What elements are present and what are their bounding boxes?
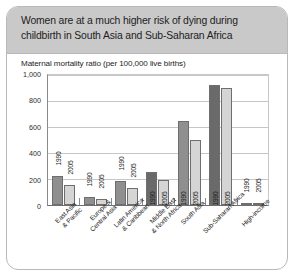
figure-card: Women are at a much higher risk of dying… (6, 6, 288, 270)
x-axis-category: South Asia (174, 208, 206, 260)
bar-year-label: 1990 (86, 173, 93, 187)
bar-year-label: 1990 (54, 152, 61, 166)
x-axis-category: High-income (237, 208, 269, 260)
x-axis-tick (79, 198, 80, 205)
y-axis-labels: 02004006008001,000 (9, 74, 43, 206)
y-axis-tick-label: 600 (29, 122, 41, 131)
bar-year-label: 2005 (66, 161, 73, 175)
bar-group: 19902005 (48, 75, 79, 205)
bar-year-label: 2005 (255, 179, 262, 193)
y-axis-tick-label: 400 (29, 149, 41, 158)
bar-year-label: 1990 (243, 179, 250, 193)
x-axis-category: Latin America& Caribbean (110, 208, 142, 260)
x-axis-category: East Asia& Pacific (47, 208, 79, 260)
bar-group: 19902005 (205, 75, 236, 205)
bar-year-label: 1990 (180, 192, 187, 206)
bar-year-label: 1990 (148, 192, 155, 206)
bar-group: 19902005 (174, 75, 205, 205)
bar[interactable]: 1990 (209, 85, 220, 205)
y-axis-tick-label: 800 (29, 96, 41, 105)
bar-group: 19902005 (111, 75, 142, 205)
bar-year-label: 2005 (129, 163, 136, 177)
bar-group: 19902005 (79, 75, 110, 205)
bar-group: 19902005 (237, 75, 268, 205)
chart-subtitle: Maternal mortality ratio (per 100,000 li… (21, 59, 186, 68)
bar[interactable]: 1990 (178, 121, 189, 205)
figure-title-band: Women are at a much higher risk of dying… (7, 7, 287, 54)
bar-year-label: 1990 (117, 157, 124, 171)
bar[interactable]: 1990 (84, 197, 95, 205)
bar[interactable]: 1990 (115, 181, 126, 205)
bar[interactable]: 1990 (241, 203, 252, 205)
chart-panel: Maternal mortality ratio (per 100,000 li… (7, 54, 287, 243)
plot-frame: 1990200519902005199020051990200519902005… (47, 74, 269, 206)
x-axis-category: Sub-Saharan Africa (206, 208, 238, 260)
x-axis-category: Middle East& North Africa (142, 208, 174, 260)
y-axis-tick-label: 0 (37, 202, 41, 211)
plot-area: 02004006008001,000 199020051990200519902… (47, 74, 269, 206)
y-axis-tick-label: 1,000 (23, 70, 41, 79)
bar[interactable]: 2005 (190, 140, 201, 205)
figure-title: Women are at a much higher risk of dying… (21, 14, 275, 43)
bar-group: 19902005 (142, 75, 173, 205)
bar[interactable]: 1990 (52, 176, 63, 205)
y-axis-tick-label: 200 (29, 175, 41, 184)
bar-groups: 1990200519902005199020051990200519902005… (48, 75, 268, 205)
x-axis-category-labels: East Asia& PacificEurope &Central AsiaLa… (47, 208, 269, 260)
bar-year-label: 1990 (211, 192, 218, 206)
bar-year-label: 2005 (98, 175, 105, 189)
x-axis-category: Europe &Central Asia (79, 208, 111, 260)
bar[interactable]: 1990 (146, 172, 157, 205)
bar[interactable]: 2005 (221, 88, 232, 205)
